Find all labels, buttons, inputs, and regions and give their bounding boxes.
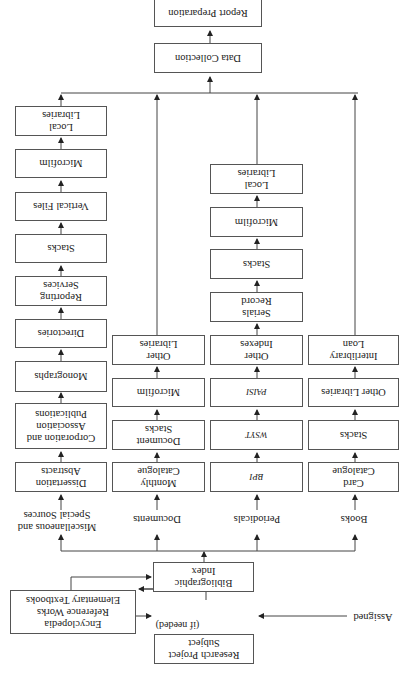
step-local-libraries-misc: Local Libraries — [15, 106, 107, 136]
step-reporting-services: Reporting Services — [15, 276, 107, 306]
bibliographic-index-box: Bibliographic Index — [153, 562, 254, 592]
flowchart-canvas: Selected Assigned Research Project Subje… — [0, 0, 407, 673]
step-serials-record: Serials Record — [210, 292, 303, 322]
step-monthly-catalogue: Monthly Catalogue — [112, 462, 205, 492]
source-misc-label: Miscellaneous and Special Sources — [7, 509, 107, 533]
step-bpi: BPI — [210, 462, 303, 492]
step-monographs: Monographs — [15, 361, 107, 392]
step-stacks-periodicals: Stacks — [210, 249, 303, 279]
step-document-stacks: Document Stacks — [112, 420, 205, 450]
encyclopedia-box: Encyclopedia Reference Works Elementary … — [10, 590, 136, 634]
step-dissertation-abstracts: Dissertation Abstracts — [15, 462, 107, 492]
source-periodicals-label: Periodicals — [212, 513, 302, 525]
step-stacks-misc: Stacks — [15, 234, 107, 263]
step-stacks-books: Stacks — [308, 420, 399, 450]
step-microfilm-documents: Microfilm — [112, 378, 205, 407]
step-microfilm-periodicals: Microfilm — [210, 207, 303, 237]
step-vertical-files: Vertical Files — [15, 192, 107, 221]
step-other-libraries-books: Other Libraries — [308, 378, 399, 407]
step-card-catalogue: Card Catalogue — [308, 462, 399, 492]
step-microfilm-misc: Microfilm — [15, 149, 107, 178]
step-wsyt: WSYT — [210, 420, 303, 450]
step-local-libraries-periodicals: Local Libraries — [210, 164, 303, 194]
research-project-box: Research Project Subject — [154, 634, 254, 664]
step-corporation-publications: Corporation and Association Publications — [15, 403, 107, 449]
step-paisi: PAISI — [210, 378, 303, 407]
if-needed-label: (if needed) — [150, 619, 205, 631]
step-directories: Directories — [15, 319, 107, 348]
source-documents-label: Documents — [112, 513, 202, 525]
data-collection-box: Data Collection — [154, 43, 262, 73]
source-books-label: Books — [309, 513, 399, 525]
report-preparation-box: Report Preparation — [154, 0, 262, 27]
assigned-label: Assigned — [347, 611, 399, 623]
step-other-indexes: Other Indexes — [210, 335, 303, 365]
step-interlibrary-loan: Interlibrary Loan — [308, 335, 399, 365]
step-other-libraries-documents: Other Libraries — [112, 335, 205, 365]
